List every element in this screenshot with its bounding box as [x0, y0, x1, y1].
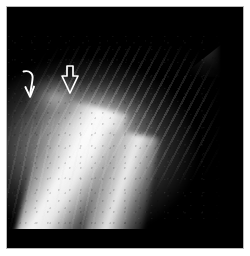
radiograph-figure: [0, 0, 250, 256]
cortical-shaft-streak: [14, 96, 127, 248]
curved-arrow-down-icon[interactable]: [17, 67, 43, 101]
upper-right-bright-wedge: [177, 24, 243, 77]
hollow-arrow-down-icon[interactable]: [57, 63, 83, 97]
letterbox-band-top: [7, 7, 243, 31]
radiograph-plate-frame: [6, 6, 244, 249]
film-grain-speckle: [7, 7, 243, 248]
radiograph-film: [7, 7, 243, 248]
letterbox-band-bottom: [7, 229, 243, 248]
collimation-block-right: [205, 7, 243, 248]
